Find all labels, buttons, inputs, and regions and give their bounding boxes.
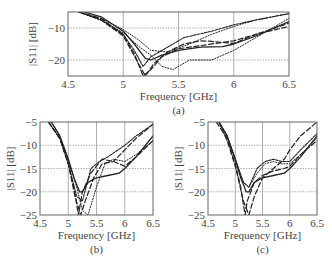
y-tick-label: −5 xyxy=(25,116,37,128)
x-axis-label: Frequency [GHz] xyxy=(58,229,135,241)
y-tick-label: −20 xyxy=(188,186,206,198)
x-axis-label: Frequency [GHz] xyxy=(140,90,217,102)
y-axis-label: |S11| [dB] xyxy=(172,146,184,190)
y-axis-label: |S11| [dB] xyxy=(4,146,16,190)
figure: 4.555.566.5−10−20Frequency [GHz]|S11| [d… xyxy=(0,0,332,262)
y-axis-label: |S11| [dB] xyxy=(26,22,38,66)
x-tick-label: 6.5 xyxy=(310,217,324,229)
y-tick-label: −15 xyxy=(20,163,38,175)
subfigure-caption: (c) xyxy=(256,243,269,256)
series-dash-dense xyxy=(79,12,289,66)
x-tick-label: 5.5 xyxy=(256,217,270,229)
x-tick-label: 6 xyxy=(287,217,293,229)
x-tick-label: 6.5 xyxy=(146,217,160,229)
chart-c: 4.555.566.5−5−10−15−20−25Frequency [GHz]… xyxy=(172,116,324,256)
x-tick-label: 6 xyxy=(122,217,128,229)
series-dotted-2 xyxy=(79,12,289,70)
x-axis-label: Frequency [GHz] xyxy=(224,229,301,241)
x-tick-label: 4.5 xyxy=(61,78,75,90)
y-tick-label: −5 xyxy=(193,116,205,128)
series-group xyxy=(79,12,289,76)
x-tick-label: 5 xyxy=(233,217,239,229)
y-tick-label: −10 xyxy=(20,139,38,151)
x-tick-label: 6 xyxy=(231,78,237,90)
y-tick-label: −20 xyxy=(48,54,66,66)
y-tick-label: −25 xyxy=(20,209,38,221)
series-dashed-1 xyxy=(216,122,317,215)
y-tick-label: −20 xyxy=(20,186,38,198)
x-tick-label: 5.5 xyxy=(90,217,104,229)
subfigure-caption: (b) xyxy=(90,243,103,256)
series-dotted-1 xyxy=(79,12,289,52)
y-tick-label: −10 xyxy=(48,22,66,34)
x-tick-label: 5.5 xyxy=(172,78,186,90)
subfigure-caption: (a) xyxy=(172,104,185,117)
y-tick-label: −15 xyxy=(188,163,206,175)
chart-b: 4.555.566.5−5−10−15−20−25Frequency [GHz]… xyxy=(4,116,160,256)
series-dashed-2 xyxy=(79,12,289,76)
x-tick-label: 5 xyxy=(66,217,72,229)
y-tick-label: −25 xyxy=(188,209,206,221)
y-tick-label: −10 xyxy=(188,139,206,151)
series-group xyxy=(216,122,317,215)
x-tick-label: 6.5 xyxy=(282,78,296,90)
x-tick-label: 5 xyxy=(121,78,127,90)
chart-a: 4.555.566.5−10−20Frequency [GHz]|S11| [d… xyxy=(26,12,296,117)
